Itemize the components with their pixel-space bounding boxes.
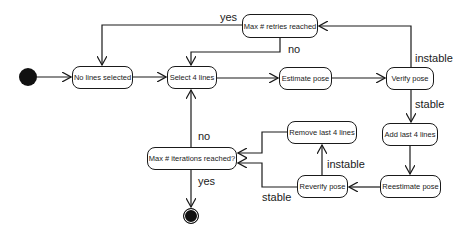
label-retries-yes: yes: [220, 12, 237, 23]
edge-retries-to-select: [191, 38, 280, 65]
label-iterations-yes: yes: [198, 176, 215, 187]
end-node-icon: [183, 208, 199, 224]
edge-retries-to-no-lines: [102, 25, 242, 65]
edge-verify-to-retries: [319, 26, 411, 67]
node-max-retries: Max # retries reached: [242, 14, 318, 38]
node-select-4-lines: Select 4 lines: [167, 66, 217, 89]
label-verify-stable: stable: [415, 99, 444, 110]
activity-diagram: No lines selected Select 4 lines Estimat…: [0, 0, 466, 238]
node-add-last-4-lines: Add last 4 lines: [382, 123, 438, 146]
node-max-iterations: Max # iterations reached?: [147, 147, 237, 170]
node-estimate-pose: Estimate pose: [279, 67, 332, 90]
label-iterations-no: no: [198, 131, 210, 142]
node-remove-last-4-lines: Remove last 4 lines: [287, 121, 357, 144]
node-reestimate-pose: Reestimate pose: [380, 175, 441, 198]
node-verify-pose: Verify pose: [386, 67, 434, 90]
label-reverify-stable: stable: [262, 192, 291, 203]
node-reverify-pose: Reverify pose: [297, 175, 348, 198]
start-node-icon: [19, 68, 37, 86]
edges-layer: [0, 0, 466, 238]
label-retries-no: no: [288, 44, 300, 55]
label-verify-instable: instable: [415, 53, 453, 64]
node-no-lines-selected: No lines selected: [72, 66, 133, 89]
label-reverify-instable: instable: [327, 159, 365, 170]
edge-reverify-to-iterations: [238, 163, 297, 187]
edge-remove-to-iterations: [238, 132, 287, 153]
